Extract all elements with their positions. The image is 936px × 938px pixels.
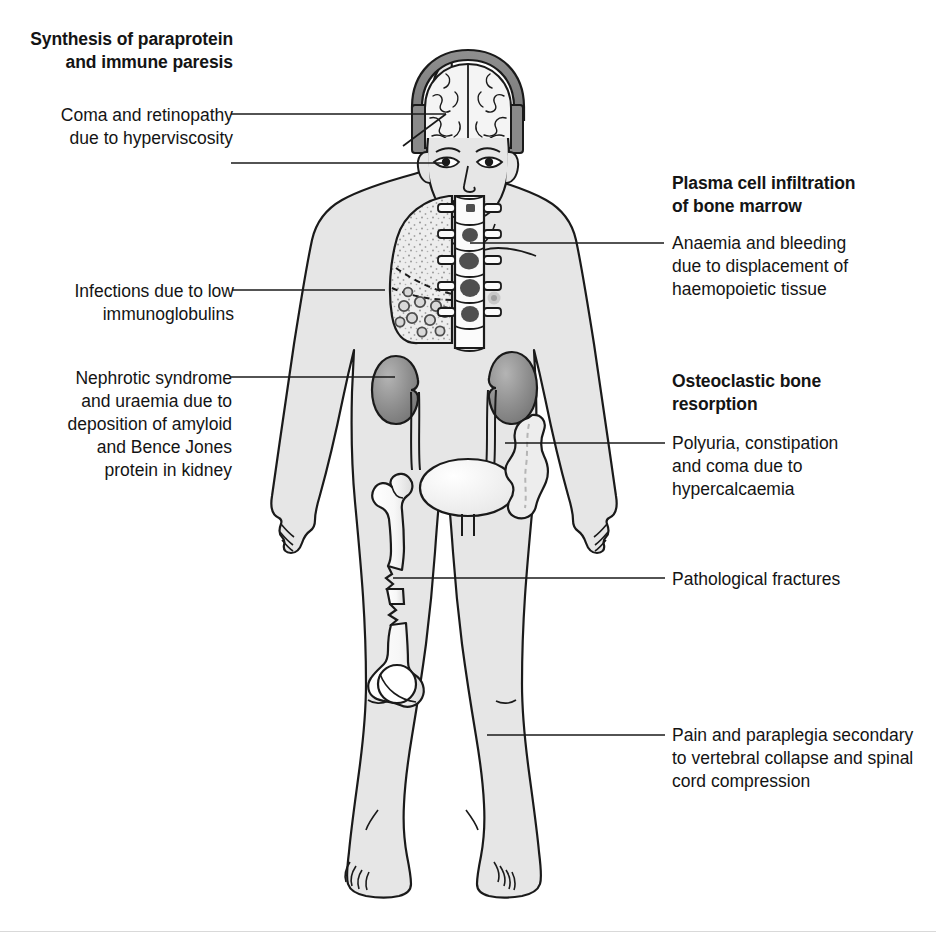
label-coma-retinopathy: Coma and retinopathy due to hyperviscosi… — [18, 104, 233, 150]
label-polyuria-constipation: Polyuria, constipation and coma due to h… — [672, 432, 922, 501]
nipple — [488, 292, 501, 305]
label-pain-paraplegia: Pain and paraplegia secondary to vertebr… — [672, 724, 934, 793]
ankle-right — [466, 810, 478, 830]
heading-osteoclastic-bone-resorption: Osteoclastic bone resorption — [672, 370, 922, 416]
ear-right — [506, 152, 518, 183]
hands-and-feet-detail — [280, 524, 608, 890]
patella — [378, 665, 416, 703]
bottom-divider — [0, 931, 936, 932]
label-infections: Infections due to low immunoglobulins — [18, 280, 234, 326]
diagram-canvas: Synthesis of paraprotein and immune pare… — [0, 0, 936, 938]
label-anaemia-bleeding: Anaemia and bleeding due to displacement… — [672, 232, 922, 301]
eye-right — [477, 158, 502, 168]
label-nephrotic-syndrome: Nephrotic syndrome and uraemia due to de… — [18, 367, 232, 482]
label-pathological-fractures: Pathological fractures — [672, 568, 922, 591]
bladder — [420, 459, 516, 516]
heading-plasma-cell-infiltration: Plasma cell infiltration of bone marrow — [672, 172, 922, 218]
heading-synthesis-paraprotein: Synthesis of paraprotein and immune pare… — [18, 28, 233, 74]
